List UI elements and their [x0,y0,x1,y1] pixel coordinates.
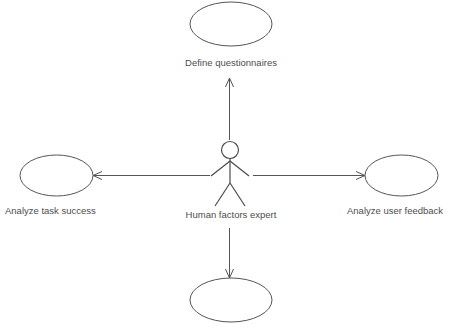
use-case-ellipse-bottom[interactable] [190,278,272,322]
use-case-ellipse-right[interactable] [365,155,438,196]
diagram-canvas: Define questionnaires Analyze task succe… [0,0,460,333]
use-case-ellipse-left[interactable] [20,155,93,196]
use-case-right[interactable]: Analyze user feedback [347,155,443,216]
association-actor-to-right [253,172,365,180]
use-case-top[interactable]: Define questionnaires [185,2,277,68]
association-actor-to-left [93,172,210,180]
use-case-label-right: Analyze user feedback [347,205,443,216]
use-case-ellipse-top[interactable] [190,2,272,46]
actor-leg-right-icon [230,183,245,206]
use-case-label-top: Define questionnaires [185,57,277,68]
actor-label: Human factors expert [186,209,277,220]
actor-arm-left-icon [211,161,230,176]
actor-leg-left-icon [215,183,230,206]
actor-human-factors-expert[interactable]: Human factors expert [186,142,277,221]
use-case-bottom[interactable] [190,278,272,322]
use-case-diagram: Define questionnaires Analyze task succe… [0,0,460,333]
association-actor-to-top [226,78,234,140]
actor-head-icon [222,142,239,159]
use-case-label-left: Analyze task success [5,205,96,216]
association-actor-to-bottom [226,228,234,278]
use-case-left[interactable]: Analyze task success [5,155,96,216]
actor-arm-right-icon [230,161,249,176]
